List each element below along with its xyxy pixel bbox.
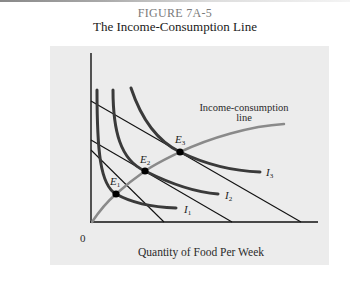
label-E2-main: E [140,153,147,165]
label-I1-sub: 1 [188,209,192,217]
label-I3-sub: 3 [270,172,274,180]
label-E1-sub: 1 [117,181,121,189]
label-E2: E2 [140,153,150,167]
x-axis-label: Quantity of Food Per Week [91,246,311,258]
income-consumption-label: Income-consumption line [194,103,294,123]
label-I1: I1 [184,203,191,217]
equilibrium-point-E3 [176,148,183,155]
label-I3: I3 [266,166,273,180]
label-E1-main: E [110,175,117,187]
equilibrium-point-E2 [141,167,148,174]
origin-label: 0 [80,232,86,244]
label-E3: E3 [175,133,185,147]
label-E2-sub: 2 [147,159,151,167]
icc-label-line2: line [194,113,294,123]
indifference-curve-I1 [97,90,176,208]
equilibrium-point-E1 [112,190,119,197]
label-E1: E1 [110,175,120,189]
label-E3-main: E [175,133,182,145]
label-I2: I2 [225,189,232,203]
label-E3-sub: 3 [182,139,186,147]
label-I2-sub: 2 [229,195,233,203]
